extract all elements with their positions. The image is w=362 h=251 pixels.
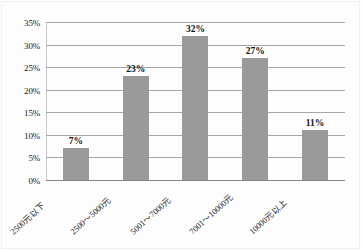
bar-7001-10000yuan[interactable] xyxy=(242,58,268,180)
bar-slot-0: 7% xyxy=(46,22,106,180)
y-tick-label: 15% xyxy=(6,108,40,118)
bars-layer: 7% 23% 32% 27% 11% xyxy=(46,22,345,180)
bar-5001-7000yuan[interactable] xyxy=(182,36,208,181)
bar-value-label: 27% xyxy=(246,46,265,56)
y-tick-label: 5% xyxy=(6,153,40,163)
y-tick-label: 10% xyxy=(6,131,40,141)
x-axis-category-labels: 2500元以下 2500～5000元 5001～7000元 7001～10000… xyxy=(46,180,345,251)
bar-slot-2: 32% xyxy=(166,22,226,180)
bar-value-label: 11% xyxy=(306,118,324,128)
bar-value-label: 7% xyxy=(69,136,83,146)
x-tick-label: 2500元以下 xyxy=(7,199,47,237)
bar-2500-5000yuan[interactable] xyxy=(123,76,149,180)
bar-chart: 35% 30% 25% 20% 15% 10% 5% 0% 7% 23% 32% xyxy=(0,0,362,251)
y-tick-label: 25% xyxy=(6,63,40,73)
bar-slot-4: 11% xyxy=(285,22,345,180)
bar-2500yuan-below[interactable] xyxy=(63,148,89,180)
bar-slot-1: 23% xyxy=(106,22,166,180)
bar-10000yuan-above[interactable] xyxy=(302,130,328,180)
bar-slot-3: 27% xyxy=(225,22,285,180)
x-label-slot-4: 10000元以上 xyxy=(285,180,345,251)
y-tick-label: 0% xyxy=(6,176,40,186)
y-tick-label: 20% xyxy=(6,86,40,96)
bar-value-label: 23% xyxy=(126,64,145,74)
bar-value-label: 32% xyxy=(186,24,205,34)
y-tick-label: 30% xyxy=(6,41,40,51)
y-tick-label: 35% xyxy=(6,18,40,28)
